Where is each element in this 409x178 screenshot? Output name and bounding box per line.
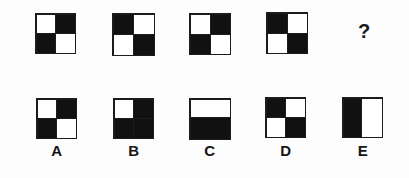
option-d-tile[interactable] xyxy=(265,97,306,138)
quadrant-grid xyxy=(190,14,230,54)
option-b-quadrant-bl xyxy=(114,118,135,139)
option-a-quadrant-tl xyxy=(37,99,58,120)
quadrant-grid xyxy=(113,14,154,55)
quadrant-grid xyxy=(37,99,76,138)
seq-1-quadrant-tr xyxy=(55,14,76,35)
quadrant-grid xyxy=(267,13,307,53)
missing-tile-question-mark: ? xyxy=(343,21,385,41)
seq-3-quadrant-bl xyxy=(190,34,211,55)
option-e-half-right xyxy=(361,98,383,138)
seq-2-tile[interactable] xyxy=(112,13,155,56)
seq-4-quadrant-br xyxy=(287,33,308,54)
option-a-quadrant-br xyxy=(56,118,77,139)
quadrant-grid xyxy=(114,99,153,138)
option-b-quadrant-tl xyxy=(114,99,135,120)
quadrant-grid xyxy=(36,14,75,53)
seq-4-quadrant-bl xyxy=(267,33,288,54)
seq-3-quadrant-tl xyxy=(190,14,211,35)
seq-3-quadrant-tr xyxy=(210,14,231,35)
seq-4-quadrant-tl xyxy=(267,13,288,34)
option-b-quadrant-tr xyxy=(133,99,154,120)
option-d-quadrant-br xyxy=(285,117,306,138)
option-d-quadrant-tr xyxy=(285,98,306,119)
seq-1-quadrant-tl xyxy=(36,14,57,35)
option-d-label[interactable]: D xyxy=(265,143,307,158)
option-e-tile[interactable] xyxy=(342,97,383,138)
option-c-half-bottom xyxy=(190,117,231,140)
seq-2-quadrant-tr xyxy=(133,14,155,36)
option-b-tile[interactable] xyxy=(113,98,154,139)
seq-2-quadrant-tl xyxy=(113,14,135,36)
option-a-quadrant-bl xyxy=(37,118,58,139)
option-d-quadrant-bl xyxy=(266,117,287,138)
option-b-label[interactable]: B xyxy=(113,143,155,158)
option-a-label[interactable]: A xyxy=(36,143,78,158)
option-c-half-top xyxy=(190,99,231,118)
seq-1-quadrant-br xyxy=(55,33,76,54)
option-a-tile[interactable] xyxy=(36,98,77,139)
horizontal-half-grid xyxy=(190,99,230,139)
option-b-quadrant-br xyxy=(133,118,154,139)
seq-1-quadrant-bl xyxy=(36,33,57,54)
vertical-half-grid xyxy=(343,98,382,137)
seq-2-quadrant-bl xyxy=(113,34,135,56)
option-e-half-left xyxy=(343,98,362,138)
seq-3-tile[interactable] xyxy=(189,13,231,55)
pattern-matrix-puzzle: ?ABCDE xyxy=(0,0,409,178)
seq-1-tile[interactable] xyxy=(35,13,76,54)
seq-2-quadrant-br xyxy=(133,34,155,56)
seq-4-quadrant-tr xyxy=(287,13,308,34)
option-d-quadrant-tl xyxy=(266,98,287,119)
option-a-quadrant-tr xyxy=(56,99,77,120)
seq-4-tile[interactable] xyxy=(266,12,308,54)
seq-3-quadrant-br xyxy=(210,34,231,55)
quadrant-grid xyxy=(266,98,305,137)
option-c-tile[interactable] xyxy=(189,98,231,140)
option-e-label[interactable]: E xyxy=(342,143,384,158)
option-c-label[interactable]: C xyxy=(189,143,231,158)
